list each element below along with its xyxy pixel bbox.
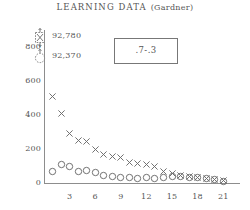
data-point-o bbox=[219, 177, 228, 186]
x-tick-label: 6 bbox=[88, 192, 102, 201]
x-tick-label: 18 bbox=[191, 192, 205, 201]
x-tick-label: 3 bbox=[63, 192, 77, 201]
learning-data-chart: LEARNING DATA (Gardner) 92,780 bbox=[0, 0, 250, 210]
x-tick-label: 9 bbox=[114, 192, 128, 201]
data-point-x bbox=[57, 109, 66, 118]
data-point-x bbox=[48, 92, 57, 101]
x-tick-label: 21 bbox=[216, 192, 230, 201]
x-tick-label: 15 bbox=[165, 192, 179, 201]
x-tick-label: 12 bbox=[139, 192, 153, 201]
